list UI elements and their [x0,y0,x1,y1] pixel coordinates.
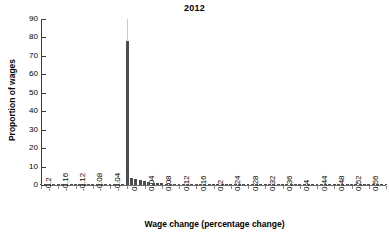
x-tick-label: 0 [131,187,139,191]
x-tick-mark [162,186,163,189]
spike-truncation-line [127,19,128,41]
bar [203,184,206,185]
bar [290,184,293,185]
x-tick-mark [196,186,197,189]
bar [96,184,99,185]
bar [40,184,43,185]
bar [238,184,241,185]
bar [147,182,150,185]
bar [91,184,94,185]
bar [160,183,163,185]
bar [104,184,107,185]
y-tick-label: 20 [18,144,38,152]
bar [44,184,47,185]
bar [156,183,159,185]
x-tick-mark [248,186,249,189]
bar [87,184,90,185]
bar [255,184,258,185]
bar [354,184,357,185]
bar [195,184,198,185]
bar [48,184,51,185]
y-tick-label: 60 [18,70,38,78]
x-tick-mark [265,186,266,189]
y-tick-label: 70 [18,52,38,60]
bar [251,184,254,185]
bar [367,184,370,185]
bar [143,181,146,185]
bar [117,184,120,185]
bar [165,184,168,185]
bar [337,184,340,185]
y-tick-label: 50 [18,89,38,97]
bar [234,184,237,185]
x-tick-mark [76,186,77,189]
bar [376,184,379,185]
bar [328,184,331,185]
bar [303,184,306,185]
bar [307,184,310,185]
y-tick-label: 0 [18,181,38,189]
x-tick-mark [386,186,387,189]
bar [324,184,327,185]
bar [346,184,349,185]
x-tick-mark [283,186,284,189]
x-tick-mark [110,186,111,189]
bar [372,184,375,185]
bar [350,184,353,185]
bar [134,179,137,185]
bar [199,184,202,185]
bar [121,184,124,185]
bar [190,184,193,185]
x-tick-mark [145,186,146,189]
bar [139,180,142,185]
bar [182,184,185,185]
bar [298,184,301,185]
x-tick-mark [352,186,353,189]
histogram-chart: 2012 Proportion of wages 010203040506070… [0,0,389,233]
bar [281,184,284,185]
bar [216,184,219,185]
x-tick-mark [179,186,180,189]
bar [311,184,314,185]
x-tick-mark [317,186,318,189]
bar [57,184,60,185]
bar [65,184,68,185]
bar [78,184,81,185]
bar [74,184,77,185]
plot-area [41,19,386,185]
bar [363,184,366,185]
x-tick-mark [300,186,301,189]
bar [126,41,129,185]
bar [113,184,116,185]
bar [272,184,275,185]
y-tick-label: 80 [18,33,38,41]
y-tick-label: 30 [18,126,38,134]
bar [247,184,250,185]
y-axis-label: Proportion of wages [7,30,17,170]
y-tick-label: 40 [18,107,38,115]
bar [380,184,383,185]
bar [341,184,344,185]
bar [221,184,224,185]
bar [268,184,271,185]
bar [359,184,362,185]
bar [173,184,176,185]
bar [100,184,103,185]
bar [225,184,228,185]
chart-title: 2012 [0,3,389,13]
bar [186,184,189,185]
bar [277,184,280,185]
bar [294,184,297,185]
bar [229,184,232,185]
bar [385,184,388,185]
x-tick-mark [127,186,128,189]
x-axis-label: Wage change (percentage change) [40,219,389,229]
bar [152,183,155,185]
x-tick-mark [231,186,232,189]
bar [208,184,211,185]
bar [320,184,323,185]
bar [61,184,64,185]
bar [212,184,215,185]
bar [52,184,55,185]
x-tick-mark [93,186,94,189]
